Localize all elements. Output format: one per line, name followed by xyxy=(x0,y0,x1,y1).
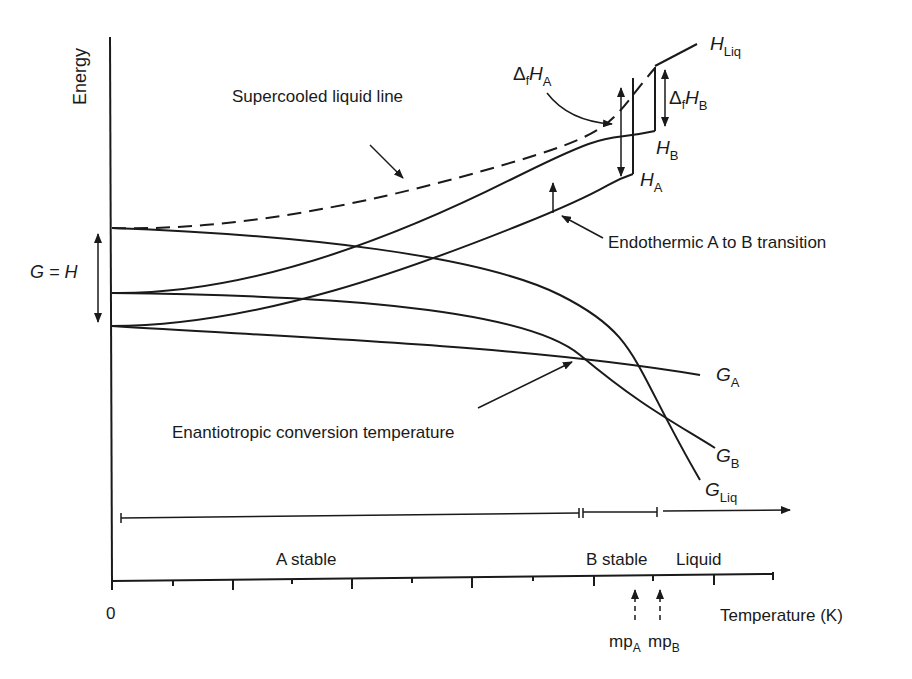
h-b-curve xyxy=(112,131,655,293)
g-a-label: GA xyxy=(716,364,740,390)
h-a-label: HA xyxy=(640,169,663,195)
h-b-label: HB xyxy=(656,137,678,163)
mp-b-label: mpB xyxy=(648,632,680,655)
dfha-pointer-arrow xyxy=(547,93,612,124)
endothermic-label: Endothermic A to B transition xyxy=(608,233,826,252)
g-liq-label: GLiq xyxy=(705,479,737,505)
mp-a-label: mpA xyxy=(609,632,641,655)
h-liq-label: HLiq xyxy=(710,33,741,59)
endothermic-pointer-arrow xyxy=(562,216,603,238)
dfhb-label: ΔfHB xyxy=(669,87,707,113)
region-b-stable: B stable xyxy=(586,550,647,569)
supercooled-pointer-arrow xyxy=(370,145,403,178)
g-liq-curve xyxy=(112,228,700,480)
g-equals-h-label: G = H xyxy=(30,262,79,282)
y-axis xyxy=(110,37,112,582)
h-liq-line xyxy=(655,44,697,66)
stability-region-bar xyxy=(121,507,790,523)
region-a-stable: A stable xyxy=(276,550,337,569)
dfha-label: ΔfHA xyxy=(513,63,552,89)
y-axis-label: Energy xyxy=(70,48,90,105)
g-a-curve xyxy=(112,326,700,375)
enantiotropic-pointer-arrow xyxy=(478,362,572,408)
supercooled-label: Supercooled liquid line xyxy=(232,87,403,106)
enantiotropic-label: Enantiotropic conversion temperature xyxy=(172,423,455,442)
x-origin-label: 0 xyxy=(106,604,115,623)
region-liquid: Liquid xyxy=(676,550,721,569)
x-axis-label: Temperature (K) xyxy=(720,606,843,625)
g-b-label: GB xyxy=(716,445,739,471)
diagram-canvas: Energy Supercooled liquid line Endotherm… xyxy=(0,0,912,679)
x-axis xyxy=(112,574,773,581)
phase-diagram: Energy Supercooled liquid line Endotherm… xyxy=(0,0,912,679)
